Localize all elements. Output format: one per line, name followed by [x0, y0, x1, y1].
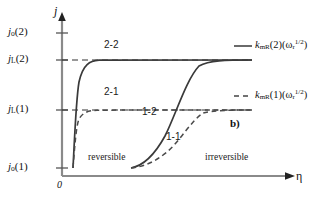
plot-area: [0, 0, 324, 215]
curve-label-2-2: 2-2: [104, 40, 118, 50]
y-tick-label-jo2: jo(2): [8, 26, 28, 38]
tick-paren-jL2: (2): [16, 52, 29, 64]
panel-label: b): [230, 118, 240, 129]
x-axis-arrowhead: [285, 172, 295, 179]
curve-label-2-1: 2-1: [104, 87, 118, 97]
tick-paren-jo2: (2): [15, 25, 28, 37]
rate-label-kmR2: kmR(2)(ωr1/2): [255, 39, 307, 51]
rate-omega-sup-kmR1: 1/2: [295, 88, 304, 96]
figure-panel-b: j η 0 jo(2) jL(2) jL(1) jo(1) 2-2 2-1 1-…: [0, 0, 324, 215]
origin-label: 0: [57, 180, 62, 190]
x-axis-label: η: [296, 170, 302, 182]
rate-omega-sup-kmR2: 1/2: [295, 38, 304, 46]
region-label-irreversible: irreversible: [205, 153, 248, 163]
rate-close-kmR2: ): [304, 39, 308, 50]
rate-close-kmR1: ): [304, 89, 308, 100]
tick-paren-jL1: (1): [16, 102, 29, 114]
curve-label-1-1: 1-1: [166, 132, 180, 142]
rate-index-kmR1: (1): [270, 89, 282, 100]
region-label-reversible: reversible: [88, 153, 125, 163]
rate-sub-kmR1: mR: [260, 93, 270, 101]
y-tick-label-jL1: jL(1): [8, 103, 28, 115]
y-axis-label: j: [54, 5, 57, 17]
curve-label-1-2: 1-2: [142, 107, 156, 117]
y-axis-arrowhead: [58, 12, 66, 21]
tick-paren-jo1: (1): [15, 160, 28, 172]
rate-index-kmR2: (2): [270, 39, 282, 50]
y-tick-label-jo1: jo(1): [8, 161, 28, 173]
rate-sub-kmR2: mR: [260, 43, 270, 51]
y-tick-label-jL2: jL(2): [8, 53, 28, 65]
rate-label-kmR1: kmR(1)(ωr1/2): [255, 89, 307, 101]
